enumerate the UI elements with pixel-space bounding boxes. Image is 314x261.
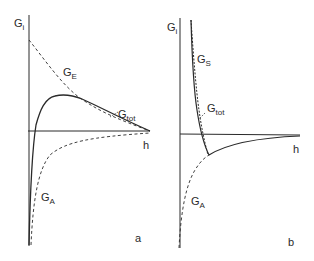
panel-b-letter: b xyxy=(288,236,294,248)
panel-a xyxy=(28,15,150,246)
label-sub: i xyxy=(23,23,25,32)
label-main: G xyxy=(118,108,127,120)
panel-b-gtot-label: Gtot xyxy=(207,103,224,117)
panel-b-y-axis-label: Gi xyxy=(167,22,177,36)
label-main: G xyxy=(63,66,72,78)
label-sub: i xyxy=(176,27,178,36)
label-sub: tot xyxy=(127,114,136,123)
panel-a-y-axis-label: Gi xyxy=(14,18,24,32)
label-main: G xyxy=(197,53,206,65)
label-sub: A xyxy=(200,201,205,210)
panel-a-gtot-label: Gtot xyxy=(118,109,135,123)
label-main: G xyxy=(167,21,176,33)
label-sub: tot xyxy=(216,108,225,117)
panel-b-h-axis xyxy=(180,134,300,135)
panel-a-letter: a xyxy=(135,232,141,244)
label-sub: E xyxy=(72,72,77,81)
panel-a-ge-label: GE xyxy=(63,67,77,81)
label-main: G xyxy=(14,17,23,29)
label-sub: A xyxy=(50,197,55,206)
panel-b-h-label: h xyxy=(293,144,299,155)
panel-b-curve-gs xyxy=(191,20,208,155)
panel-a-h-label: h xyxy=(143,140,149,151)
panel-b-gs-label: GS xyxy=(197,54,211,68)
panel-a-curve-ga xyxy=(31,133,150,245)
label-main: G xyxy=(191,195,200,207)
panel-b-ga-label: GA xyxy=(191,196,205,210)
label-sub: S xyxy=(206,59,211,68)
label-main: G xyxy=(41,191,50,203)
label-main: G xyxy=(207,102,216,114)
panel-a-ga-label: GA xyxy=(41,192,55,206)
diagram-canvas xyxy=(0,0,314,261)
